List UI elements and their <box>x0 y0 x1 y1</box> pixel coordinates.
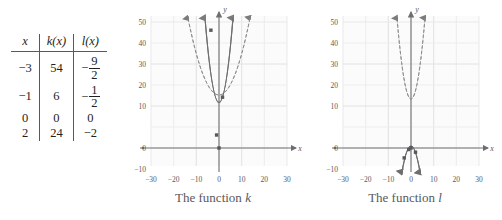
fraction: − 9 2 <box>81 55 99 82</box>
y-axis-ticks: 50 40 30 20 10 0 −10 <box>326 18 338 174</box>
x-axis-label: x <box>297 144 302 153</box>
x-tick-label: −20 <box>168 175 180 184</box>
fraction-sign: − <box>81 62 88 75</box>
data-point <box>414 151 417 154</box>
y-tick-label: 30 <box>139 60 147 69</box>
cell-lx: −2 <box>74 126 107 141</box>
y-tick-label: 0 <box>142 144 146 153</box>
y-axis-label: y <box>222 5 227 14</box>
x-tick-label: −30 <box>337 175 349 184</box>
fraction-stack: 1 2 <box>89 84 99 111</box>
y-axis-ticks: 50 40 30 20 10 0 −10 <box>134 18 146 174</box>
fraction-denominator: 2 <box>89 97 99 110</box>
cell-lx: 0 <box>74 111 107 126</box>
x-axis-label: x <box>489 144 494 153</box>
data-point <box>409 146 412 149</box>
data-point <box>403 156 406 159</box>
table-row: 0 0 0 <box>11 111 106 126</box>
data-point <box>217 146 220 149</box>
caption-prefix: The function <box>368 190 438 205</box>
x-axis-ticks: −30 −20 −10 0 10 20 30 <box>145 175 291 184</box>
cell-kx: 24 <box>39 126 73 141</box>
column-header-lx: l(x) <box>74 34 107 52</box>
caption-prefix: The function <box>175 190 245 205</box>
data-point <box>221 96 224 99</box>
x-axis-ticks: −30 −20 −10 0 10 20 30 <box>337 175 483 184</box>
table-head: x k(x) l(x) <box>11 34 106 52</box>
fraction-stack: 9 2 <box>89 55 99 82</box>
table-row: −3 54 − 9 2 <box>11 52 106 83</box>
y-tick-label: −10 <box>134 165 146 174</box>
x-tick-label: −10 <box>382 175 394 184</box>
x-tick-label: −30 <box>145 175 157 184</box>
chart-k-svg: 50 40 30 20 10 0 −10 −30 −20 −10 0 10 20… <box>118 0 308 192</box>
x-tick-label: 30 <box>475 175 483 184</box>
x-tick-label: −10 <box>190 175 202 184</box>
table-row: 2 24 −2 <box>11 126 106 141</box>
x-tick-label: 30 <box>283 175 291 184</box>
y-tick-label: −10 <box>326 165 338 174</box>
caption-symbol: k <box>245 190 251 205</box>
cell-kx: 54 <box>39 52 73 83</box>
cell-x: 2 <box>11 126 39 141</box>
table-row: −1 6 − 1 2 <box>11 83 106 112</box>
fraction: − 1 2 <box>81 84 99 111</box>
column-header-x: x <box>11 34 39 52</box>
cell-kx: 0 <box>39 111 73 126</box>
x-tick-label: 20 <box>453 175 461 184</box>
cell-lx: − 1 2 <box>74 83 107 112</box>
y-tick-label: 40 <box>331 39 339 48</box>
y-tick-label: 20 <box>331 81 339 90</box>
x-tick-label: 20 <box>261 175 269 184</box>
cell-x: −1 <box>11 83 39 112</box>
cell-kx: 6 <box>39 83 73 112</box>
cell-x: −3 <box>11 52 39 83</box>
y-tick-label: 30 <box>331 60 339 69</box>
table-body: −3 54 − 9 2 −1 6 <box>11 52 106 142</box>
y-axis-label: y <box>414 5 419 14</box>
y-tick-label: 10 <box>331 102 339 111</box>
data-point <box>209 29 212 32</box>
chart-k-caption: The function k <box>118 190 308 206</box>
chart-function-l: 50 40 30 20 10 0 −10 −30 −20 −10 0 10 20… <box>308 0 502 220</box>
table-header-row: x k(x) l(x) <box>11 34 106 52</box>
x-tick-label: 0 <box>217 175 221 184</box>
fraction-sign: − <box>81 91 88 104</box>
fraction-numerator: 9 <box>89 55 99 69</box>
y-tick-label: 0 <box>334 144 338 153</box>
x-tick-label: 0 <box>409 175 413 184</box>
fraction-denominator: 2 <box>89 69 99 82</box>
x-tick-label: 10 <box>238 175 246 184</box>
function-values-table: x k(x) l(x) −3 54 − 9 2 <box>11 34 106 141</box>
chart-l-caption: The function l <box>308 190 502 206</box>
data-point <box>215 133 218 136</box>
fraction-numerator: 1 <box>89 84 99 98</box>
chart-l-svg: 50 40 30 20 10 0 −10 −30 −20 −10 0 10 20… <box>308 0 502 192</box>
table-panel: x k(x) l(x) −3 54 − 9 2 <box>0 0 118 141</box>
x-tick-label: −20 <box>360 175 372 184</box>
caption-symbol: l <box>438 190 442 205</box>
cell-x: 0 <box>11 111 39 126</box>
cell-lx: − 9 2 <box>74 52 107 83</box>
chart-function-k: 50 40 30 20 10 0 −10 −30 −20 −10 0 10 20… <box>118 0 308 220</box>
y-tick-label: 10 <box>139 102 147 111</box>
y-tick-label: 20 <box>139 81 147 90</box>
figure-container: x k(x) l(x) −3 54 − 9 2 <box>0 0 502 220</box>
y-tick-label: 50 <box>139 18 147 27</box>
column-header-kx: k(x) <box>39 34 73 52</box>
x-tick-label: 10 <box>430 175 438 184</box>
y-tick-label: 40 <box>139 39 147 48</box>
y-tick-label: 50 <box>331 18 339 27</box>
